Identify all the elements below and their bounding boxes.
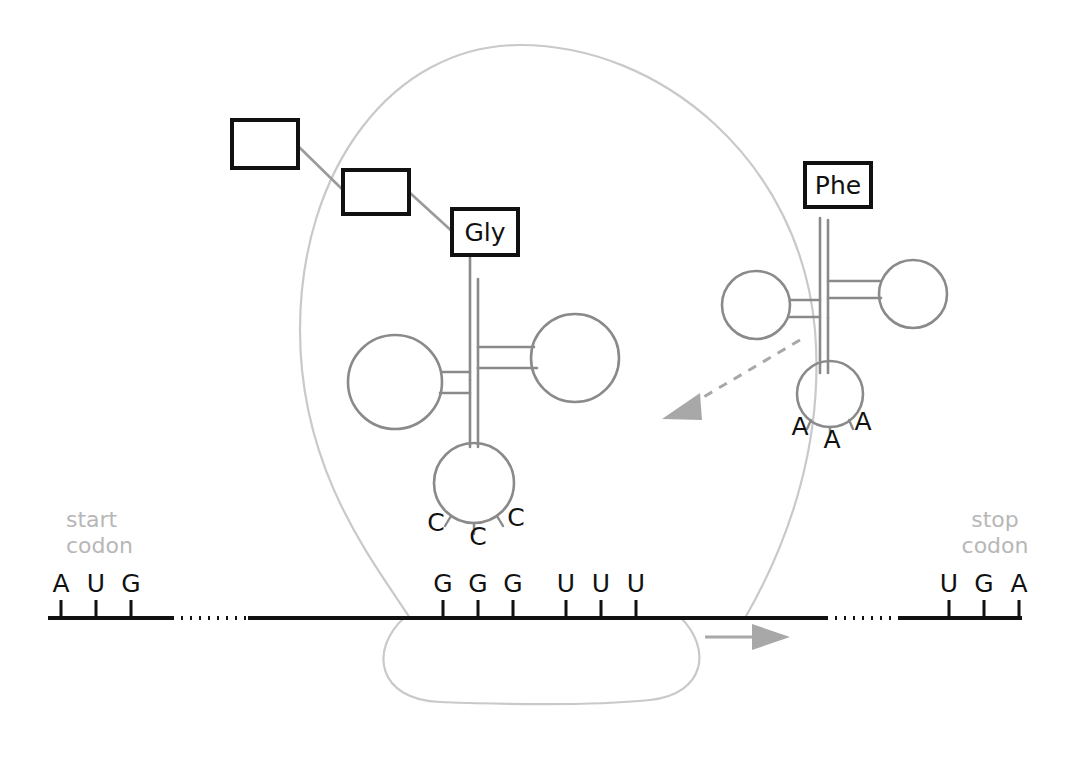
trna-gly-d-loop <box>348 335 442 429</box>
phe-codon-base-3: U <box>627 569 645 598</box>
trna-gly-anticodon-base-1: C <box>427 508 444 537</box>
trna-phe-anticodon-base-3: A <box>854 407 871 436</box>
start-codon-base-1: A <box>52 569 69 598</box>
trna-gly-anticodon-tick-3 <box>497 516 503 526</box>
stop-codon-base-3: A <box>1010 569 1027 598</box>
empty-residue-box-1[interactable] <box>232 120 298 168</box>
ribosome-movement-arrow-head <box>752 624 790 650</box>
stop-codon-caption-line2: codon <box>962 533 1029 558</box>
trna-gly-anticodon-base-3: C <box>507 503 524 532</box>
diagram-canvas: C C C A A A Gly <box>0 0 1072 761</box>
trna-gly-anticodon-tick-1 <box>445 516 451 526</box>
stop-codon-base-2: G <box>974 569 993 598</box>
ribosome-small-subunit-outline <box>383 617 699 704</box>
polypeptide-leader-2-3 <box>409 192 455 234</box>
gly-codon-group: G G G <box>433 569 522 618</box>
start-codon-caption-line1: start <box>66 507 118 532</box>
trna-phe: A A A <box>722 218 947 454</box>
trna-phe-t-loop <box>879 260 947 328</box>
ribosome-movement-arrow <box>705 624 790 650</box>
polypeptide-chain: Gly <box>232 120 518 255</box>
incoming-trna-arrow-head <box>662 393 702 420</box>
trna-gly-anticodon-loop <box>434 443 514 523</box>
ribosome-large-subunit-outline <box>300 45 816 618</box>
trna-phe-anticodon-base-1: A <box>791 412 808 441</box>
gly-residue-label: Gly <box>464 218 505 247</box>
incoming-trna-arrow-shaft <box>690 340 800 405</box>
trna-gly-anticodon-base-2: C <box>469 522 486 551</box>
start-codon-base-2: U <box>87 569 105 598</box>
gly-codon-base-3: G <box>503 569 522 598</box>
trna-phe-anticodon-tick-3 <box>849 420 853 429</box>
trna-gly-t-loop <box>531 314 619 402</box>
phe-codon-base-2: U <box>592 569 610 598</box>
stop-codon-caption-line1: stop <box>971 507 1019 532</box>
gly-codon-base-2: G <box>468 569 487 598</box>
start-codon-caption-line2: codon <box>66 533 133 558</box>
incoming-trna-arrow <box>662 340 800 420</box>
polypeptide-leader-1-2 <box>298 146 345 192</box>
trna-phe-d-loop <box>722 271 790 339</box>
trna-gly: C C C <box>348 255 619 551</box>
phe-residue-label: Phe <box>815 171 861 200</box>
stop-codon-base-1: U <box>940 569 958 598</box>
phe-amino-acid: Phe <box>805 163 871 207</box>
start-codon-base-3: G <box>121 569 140 598</box>
start-codon-group: start codon A U G <box>52 507 140 618</box>
trna-phe-anticodon-base-2: A <box>823 425 840 454</box>
phe-codon-base-1: U <box>557 569 575 598</box>
phe-codon-group: U U U <box>557 569 645 618</box>
empty-residue-box-2[interactable] <box>343 170 409 214</box>
stop-codon-group: stop codon U G A <box>940 507 1029 618</box>
gly-codon-base-1: G <box>433 569 452 598</box>
